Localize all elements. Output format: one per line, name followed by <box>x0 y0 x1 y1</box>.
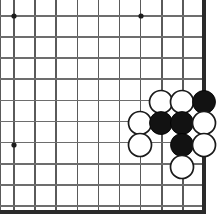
white-stone-4 <box>193 112 216 135</box>
goban-canvas <box>0 0 218 219</box>
white-stone-3 <box>129 112 152 135</box>
white-stone-1 <box>150 91 173 114</box>
star-point-3 <box>11 142 16 147</box>
black-stone-4 <box>171 134 194 157</box>
white-stone-5 <box>129 134 152 157</box>
grid-horizontal-lines <box>0 16 204 206</box>
white-stone-7 <box>171 156 194 179</box>
black-stone-3 <box>171 112 194 135</box>
go-board-diagram <box>0 0 218 219</box>
star-point-1 <box>11 13 16 18</box>
star-point-2 <box>138 13 143 18</box>
black-stone-2 <box>150 112 173 135</box>
white-stone-6 <box>193 134 216 157</box>
black-stone-1 <box>193 91 216 114</box>
white-stone-2 <box>171 91 194 114</box>
